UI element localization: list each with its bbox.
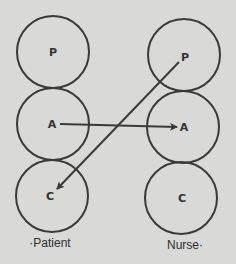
patient-adult-letter: A xyxy=(48,118,57,131)
nurse-parent-state: P xyxy=(148,19,220,91)
patient-child-state: C xyxy=(16,160,88,232)
transaction-diagram: P A C ·Patient P A C Nurse· xyxy=(0,0,236,264)
nurse-adult-letter: A xyxy=(180,121,189,134)
nurse-column: P A C Nurse· xyxy=(145,19,220,252)
patient-label: ·Patient xyxy=(29,236,71,250)
patient-parent-letter: P xyxy=(49,46,57,59)
patient-child-letter: C xyxy=(46,190,54,203)
nurse-parent-letter: P xyxy=(181,51,189,64)
nurse-child-state: C xyxy=(145,162,217,234)
patient-parent-state: P xyxy=(17,16,89,88)
nurse-child-letter: C xyxy=(178,192,186,205)
nurse-label: Nurse· xyxy=(167,238,203,252)
patient-column: P A C ·Patient xyxy=(16,16,89,250)
